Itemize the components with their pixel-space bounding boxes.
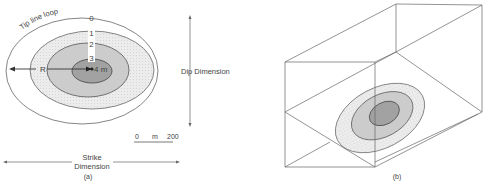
panel-b [285,4,482,167]
strike-label-line1: Strike [82,153,101,162]
scale-end: 200 [167,133,179,140]
caption-a: (a) [84,173,93,181]
box-edge [285,142,330,167]
scale-unit: m [152,133,158,140]
box-edge [285,4,396,62]
scale-start: 0 [135,133,139,140]
panel-a: 0 1 2 3 Tip line loop R 4 m Dip Dimensio… [3,7,230,181]
strike-arrow-left-icon [3,161,7,164]
dip-arrow-down-icon [189,123,192,127]
box-edge [396,5,482,52]
center-label: 4 m [94,65,108,74]
strike-label-line2: Dimension [74,162,109,171]
strike-arrow-right-icon [176,161,180,164]
figure: 0 1 2 3 Tip line loop R 4 m Dip Dimensio… [0,0,491,185]
dip-arrow-up-icon [189,15,192,19]
radius-label: R [40,65,46,74]
contour-label-1: 1 [89,29,94,38]
contour-label-2: 2 [89,40,94,49]
inclined-contours [324,69,437,167]
caption-b: (b) [393,173,402,181]
box-edge [396,4,482,5]
contour-label-0: 0 [89,14,94,23]
dip-dimension-label: Dip Dimension [181,67,230,76]
contour-label-3: 3 [89,54,94,63]
